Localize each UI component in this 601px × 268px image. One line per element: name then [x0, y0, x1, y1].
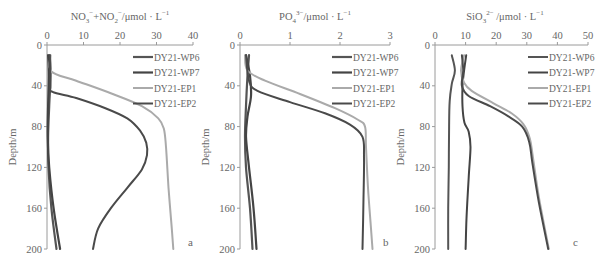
y-tick-label: 160 [219, 203, 235, 214]
legend-label: DY21-WP7 [549, 68, 595, 78]
legend-label: DY21-EP2 [549, 99, 591, 109]
series-dy21-ep1 [461, 55, 549, 249]
x-tick-label: 0 [237, 30, 242, 41]
x-tick-label: 0 [432, 30, 437, 41]
axis-title: SiO32− /μmol · L−1 [466, 9, 544, 25]
y-tick-label: 0 [37, 40, 42, 51]
x-tick-label: 50 [583, 30, 594, 41]
axis-title: NO3−+NO2−/μmol · L−1 [71, 9, 170, 25]
panel-c-silicate-chart: SiO32− /μmol · L−10102030405004080120160… [395, 9, 595, 255]
y-tick-label: 200 [26, 244, 42, 255]
x-tick-label: 40 [188, 30, 199, 41]
series-dy21-ep2 [462, 55, 549, 249]
legend-label: DY21-WP6 [549, 53, 595, 63]
series-dy21-wp6 [448, 55, 455, 249]
panel-letter: b [383, 236, 389, 248]
y-tick-label: 200 [414, 244, 430, 255]
x-tick-label: 1 [287, 30, 292, 41]
panel-a-nitrate-chart: NO3−+NO2−/μmol · L−101020304004080120160… [7, 9, 200, 255]
y-tick-label: 80 [32, 121, 43, 132]
y-tick-label: 120 [26, 162, 42, 173]
y-tick-label: 120 [219, 162, 235, 173]
series-dy21-ep2 [50, 55, 147, 249]
y-tick-label: 160 [414, 203, 430, 214]
legend-label: DY21-WP6 [353, 53, 399, 63]
y-tick-label: 40 [32, 80, 43, 91]
series-dy21-wp7 [462, 55, 470, 249]
x-tick-label: 20 [115, 30, 126, 41]
x-tick-label: 2 [337, 30, 342, 41]
legend-label: DY21-EP2 [154, 99, 196, 109]
panel-letter: a [188, 236, 193, 248]
x-tick-label: 10 [78, 30, 89, 41]
legend-label: DY21-EP2 [353, 99, 395, 109]
y-axis-label: Depth/m [7, 129, 18, 166]
y-tick-label: 0 [230, 40, 235, 51]
x-tick-label: 10 [460, 30, 471, 41]
y-axis-label: Depth/m [200, 129, 211, 166]
series-dy21-ep2 [246, 55, 364, 249]
axis-title: PO43−/μmol · L−1 [279, 9, 351, 25]
x-tick-label: 3 [387, 30, 392, 41]
panel-b-phosphate-chart: PO43−/μmol · L−1012304080120160200Depth/… [200, 9, 399, 255]
legend-label: DY21-WP6 [154, 53, 200, 63]
x-tick-label: 40 [552, 30, 563, 41]
figure: NO3−+NO2−/μmol · L−101020304004080120160… [0, 0, 601, 268]
y-tick-label: 120 [414, 162, 430, 173]
legend-label: DY21-WP7 [353, 68, 399, 78]
y-tick-label: 80 [225, 121, 236, 132]
y-axis-label: Depth/m [395, 129, 406, 166]
y-tick-label: 40 [225, 80, 236, 91]
x-tick-label: 30 [151, 30, 162, 41]
x-tick-label: 0 [44, 30, 49, 41]
x-tick-label: 30 [522, 30, 533, 41]
y-tick-label: 80 [420, 121, 431, 132]
legend-label: DY21-EP1 [549, 84, 591, 94]
x-tick-label: 20 [491, 30, 502, 41]
legend-label: DY21-EP1 [353, 84, 395, 94]
panel-letter: c [573, 236, 578, 248]
y-tick-label: 0 [425, 40, 430, 51]
legend-label: DY21-WP7 [154, 68, 200, 78]
legend-label: DY21-EP1 [154, 84, 196, 94]
y-tick-label: 160 [26, 203, 42, 214]
y-tick-label: 200 [219, 244, 235, 255]
y-tick-label: 40 [420, 80, 431, 91]
